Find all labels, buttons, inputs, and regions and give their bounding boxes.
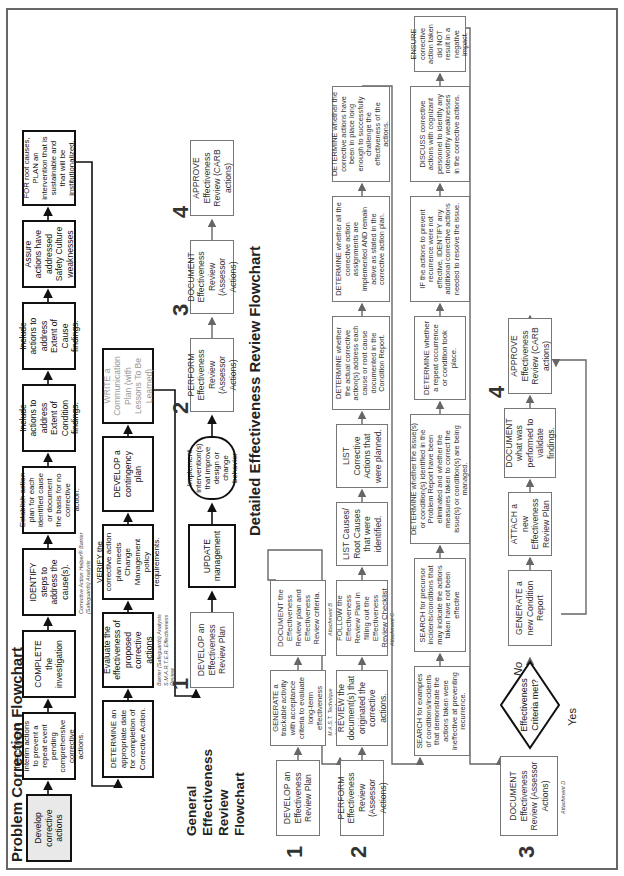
decision-effectiveness-criteria[interactable]: Effectiveness Criteria met? [519,674,541,736]
detailed-develop-plan[interactable]: DEVELOP an Effectiveness Review Plan [276,760,320,836]
pc-safety-culture[interactable]: Assure actions have addressed Safety Cul… [22,220,76,288]
detailed-document-validation[interactable]: DOCUMENT what was performed to validate … [504,408,556,478]
pc-establish-action-plan[interactable]: Establish action plan for each identifie… [22,466,76,534]
general-implement-interventions[interactable]: Implement intervention(s) that improve d… [188,436,236,500]
detailed-step-3-number: 3 [514,846,540,858]
detailed-list-causes[interactable]: LIST Causes/ Root Causes that were ident… [336,502,388,566]
pc-evaluate-effectiveness[interactable]: Evaluate the effectiveness of proposed c… [102,612,154,688]
detailed-perform-review[interactable]: PERFORM Effectiveness Review (Assessor A… [340,760,384,836]
detailed-step-1-number: 1 [282,846,308,858]
pc-implement-interim-actions[interactable]: IMPLEMENT interim actions to prevent a r… [22,712,76,780]
pc-identify-steps[interactable]: IDENTIFY steps to address the cause(s). [22,548,76,616]
detailed-step-4-number: 4 [484,386,510,398]
general-update-management[interactable]: UPDATE management [188,524,236,588]
detailed-follow-plan-checklist[interactable]: FOLLOW the Effectiveness Review Plan in … [336,580,388,656]
pc-develop-contingency-plan[interactable]: DEVELOP a contingency plan [102,436,154,512]
flowchart-page: Problem Correction Flowchart Develop cor… [0,0,624,876]
detailed-document-plan-criteria[interactable]: DOCUMENT the Effectiveness Review plan a… [270,580,326,656]
detailed-identify-additional-actions[interactable]: IF the actions to prevent recurrence wer… [410,196,470,302]
detailed-discuss-corrective-actions[interactable]: DISCUSS corrective actions with cognizan… [410,86,470,182]
detailed-determine-actions-address-causes[interactable]: DETERMINE whether the actual corrective … [332,316,390,410]
pc-row1-note: Corrective Action Helper® Barrier (Safeg… [78,524,91,614]
pc-extent-of-cause[interactable]: Include actions to address Extent of Cau… [22,302,76,370]
general-approve-review[interactable]: APPROVE Effectiveness Review (CARB actio… [190,140,234,216]
detailed-determine-issues-eliminated[interactable]: DETERMINE whether the issue(s) or condit… [410,414,470,544]
detailed-row1-note-b: Attachment B [327,576,334,636]
pc-complete-investigation[interactable]: COMPLETE the investigation [22,630,76,698]
decision-yes-label: Yes [566,708,578,726]
detailed-generate-trackable-activity[interactable]: GENERATE a trackable activity with accep… [270,670,326,746]
pc-row2-note: Barrier (Safeguards) Analysis S.M.A.R.T.… [156,606,176,686]
detailed-search-precursor[interactable]: SEARCH for precursor incidents/condition… [414,558,466,652]
detailed-search-examples[interactable]: SEARCH for examples of conditions/incide… [414,666,470,756]
detailed-review-title: Detailed Effectiveness Review Flowchart [246,246,263,536]
detailed-generate-condition-report[interactable]: GENERATE a new Condition Report [508,570,552,646]
detailed-determine-assignments-implemented[interactable]: DETERMINE whether all the corrective act… [332,196,390,302]
detailed-determine-actions-in-place[interactable]: DETERMINE whether the corrective actions… [332,86,390,182]
pc-extent-of-condition[interactable]: Include actions to address Extent of Con… [22,384,76,452]
detailed-determine-repeat-occurrence[interactable]: DETERMINE whether a repeat occurrence or… [414,316,466,400]
pc-plan-intervention[interactable]: FOR root causes, PLAN an intervention th… [22,130,76,206]
pc-determine-completion-date[interactable]: DETERMINE an appropriate date for comple… [102,700,154,778]
detailed-review-documents[interactable]: REVIEW the document(s) that originated t… [336,670,388,746]
pc-develop-corrective-actions[interactable]: Develop corrective actions [26,794,72,862]
general-document-review[interactable]: DOCUMENT Effectiveness Review (Assessor … [190,240,234,314]
decision-no-label: No [512,662,524,676]
detailed-step-2-number: 2 [346,846,372,858]
detailed-approve-review[interactable]: APPROVE Effectiveness Review (CARB actio… [508,318,552,394]
detailed-ensure-no-negative-impact[interactable]: ENSURE corrective action taken did NOT r… [414,16,466,72]
detailed-document-review[interactable]: DOCUMENT Effectiveness Review (Assessor … [500,756,558,836]
general-review-title: General Effectiveness Review Flowchart [184,756,248,836]
detailed-attach-review-plan[interactable]: ATTACH a new Effectiveness Review Plan [508,492,552,556]
pc-write-communication-plan[interactable]: WRITE a Communication Plan (with Lessons… [102,348,154,424]
pc-verify-change-management[interactable]: VERIFY the corrective action plan meets … [102,524,154,600]
detailed-list-corrective-actions[interactable]: LIST Corrective Actions that were planne… [336,424,388,488]
general-perform-review[interactable]: PERFORM Effectiveness Review (Assessor A… [190,338,234,412]
general-develop-plan[interactable]: DEVELOP an Effectiveness Review Plan [190,612,234,688]
detailed-row4-note: Attachment D [560,754,567,814]
detailed-row2-note: Attachment C [389,586,396,646]
